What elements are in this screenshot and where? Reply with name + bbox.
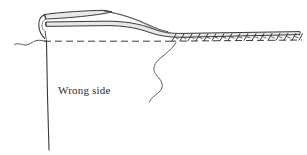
fabric-body-group <box>47 40 50 150</box>
fold-end-connector-top <box>45 15 46 20</box>
stitch-base-tick <box>207 37 211 38</box>
folded-hem-band-upper <box>45 10 113 19</box>
fold-end-connector-bottom <box>45 22 46 26</box>
leader-squiggle-left <box>15 40 47 45</box>
fold-line-dashed-group <box>44 40 302 41</box>
diagram-canvas: Wrong side <box>0 0 307 155</box>
stitch-base-tick <box>287 37 291 38</box>
folded-hem-band-lower <box>46 21 300 37</box>
folded-hem-band-group <box>39 10 300 39</box>
stitch-base-tick <box>255 37 259 38</box>
fabric-edge-vertical <box>47 40 50 150</box>
stitch-base-tick <box>215 37 219 38</box>
leader-squiggle-center <box>150 43 177 102</box>
fold-line-dashed-right <box>169 40 302 41</box>
fold-end-connector-lower <box>45 32 46 39</box>
rolled-fold-crease <box>42 19 46 31</box>
stitch-base-tick <box>295 36 299 37</box>
wrong-side-label: Wrong side <box>58 84 111 96</box>
stitch-base-tick <box>263 37 267 38</box>
stitch-base-tick <box>279 37 283 38</box>
stitch-base-tick <box>247 37 251 38</box>
stitch-base-tick <box>223 37 227 38</box>
sewing-diagram-figure: Wrong side <box>0 0 307 155</box>
stitch-base-tick <box>271 37 275 38</box>
stitch-base-tick <box>231 37 235 38</box>
stitch-base-tick <box>239 37 243 38</box>
